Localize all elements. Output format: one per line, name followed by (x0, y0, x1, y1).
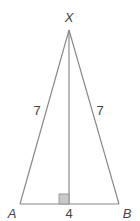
side-label-xb: 7 (96, 103, 103, 118)
right-angle-marker (59, 194, 69, 204)
side-label-ab: 4 (65, 206, 72, 221)
triangle-diagram: X A B 7 7 4 (0, 0, 140, 221)
side-label-xa: 7 (33, 103, 40, 118)
side-xa (20, 30, 69, 204)
vertex-label-a: A (7, 206, 17, 221)
vertex-label-b: B (123, 206, 132, 221)
side-xb (69, 30, 119, 204)
vertex-label-x: X (64, 10, 75, 25)
